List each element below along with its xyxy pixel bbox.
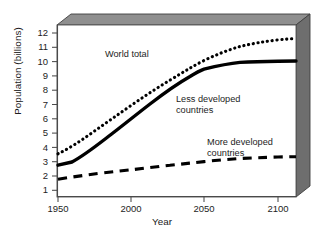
- annotation-more-developed-line2: countries: [207, 148, 244, 158]
- y-tick-label-1: 1: [20, 184, 48, 195]
- x-tick-label-2050: 2050: [184, 203, 224, 214]
- annotation-more-developed-line1: More developed: [207, 137, 273, 147]
- y-axis-title-wrapper: Population (billions): [7, 11, 25, 131]
- x-tick-label-2000: 2000: [111, 203, 151, 214]
- y-tick-label-4: 4: [20, 142, 48, 153]
- annotation-less-developed-line2: countries: [176, 105, 213, 115]
- annotation-less-developed-line1: Less developed: [176, 94, 240, 104]
- x-tick-label-1950: 1950: [38, 203, 78, 214]
- x-tick-label-2100: 2100: [258, 203, 298, 214]
- y-axis-title: Population (billions): [12, 27, 23, 115]
- frame-top-face: [57, 14, 310, 25]
- annotation-more-developed: More developed countries: [207, 137, 273, 158]
- population-projection-figure: 12 11 10 9 8 7 6 5 4 3 2 1 1950 2000 205…: [0, 0, 324, 237]
- y-tick-label-2: 2: [20, 170, 48, 181]
- annotation-world-total: World total: [105, 49, 149, 60]
- y-tick-label-3: 3: [20, 156, 48, 167]
- annotation-less-developed: Less developed countries: [176, 94, 240, 115]
- frame-right-face: [296, 14, 310, 197]
- x-axis-title: Year: [0, 216, 324, 227]
- chart-canvas: [0, 0, 324, 237]
